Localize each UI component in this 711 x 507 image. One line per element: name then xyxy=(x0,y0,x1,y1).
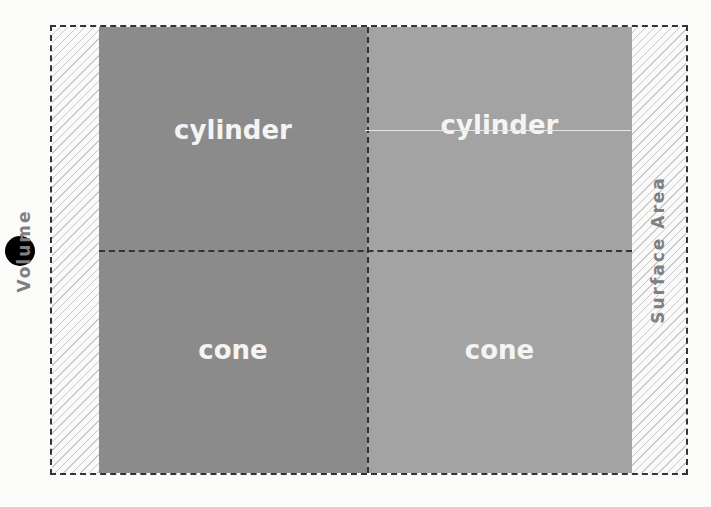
left-hatched-strip xyxy=(52,27,100,473)
diagram-frame: cylinder cone cylinder cone xyxy=(50,25,688,475)
thin-highlight-line xyxy=(365,130,631,131)
cell-surface-cylinder: cylinder xyxy=(367,110,632,140)
axis-label-surface-area: Surface Area xyxy=(648,176,668,324)
axis-label-volume: Volume xyxy=(14,209,34,292)
cell-surface-cone: cone xyxy=(367,335,632,365)
cell-volume-cone: cone xyxy=(99,335,367,365)
horizontal-divider xyxy=(99,250,632,252)
cell-volume-cylinder: cylinder xyxy=(99,115,367,145)
